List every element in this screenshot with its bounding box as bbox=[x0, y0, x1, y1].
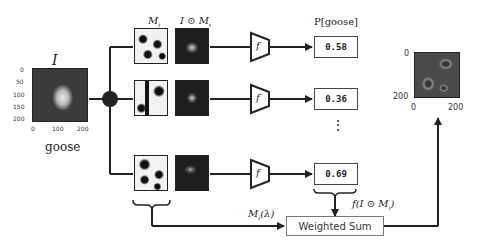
tick: 0 bbox=[20, 66, 24, 73]
mask-image-2 bbox=[134, 80, 168, 116]
mask-image-1 bbox=[134, 28, 168, 64]
tick: 150 bbox=[13, 103, 24, 110]
tick: 0 bbox=[411, 103, 416, 112]
model-f-2 bbox=[251, 85, 269, 113]
tick: 200 bbox=[393, 92, 408, 101]
masked-image-2 bbox=[175, 80, 209, 116]
tick: 200 bbox=[13, 115, 24, 122]
tick: 50 bbox=[16, 78, 24, 85]
masked-header: I ⊙ Mi bbox=[180, 15, 211, 28]
tick: 200 bbox=[77, 125, 88, 132]
tick: 0 bbox=[404, 49, 409, 58]
mask-image-3 bbox=[134, 155, 168, 191]
scores-label: f(I ⊙ Mi) bbox=[352, 198, 394, 211]
tick: 0 bbox=[31, 125, 35, 132]
tick: 100 bbox=[52, 125, 63, 132]
model-f-1 bbox=[251, 33, 269, 61]
mask-header: Mi bbox=[148, 15, 160, 28]
input-image bbox=[32, 68, 88, 122]
input-label: I bbox=[52, 52, 58, 68]
masked-image-1 bbox=[175, 28, 209, 64]
output-header: P[goose] bbox=[314, 16, 358, 27]
weights-label: Mi(λ) bbox=[248, 208, 274, 221]
model-f-3 bbox=[251, 160, 269, 188]
masked-image-3 bbox=[175, 155, 209, 191]
saliency-map bbox=[414, 52, 460, 98]
weighted-sum-box: Weighted Sum bbox=[286, 216, 384, 236]
probability-box-1: 0.58 bbox=[314, 36, 358, 58]
tick: 200 bbox=[448, 103, 463, 112]
probability-box-3: 0.69 bbox=[314, 163, 358, 185]
diagram-connectors bbox=[0, 0, 484, 245]
model-f-label-3: f bbox=[256, 167, 260, 178]
ellipsis: ⋮ bbox=[331, 118, 345, 132]
scores-brace bbox=[314, 189, 356, 197]
model-f-label-1: f bbox=[256, 40, 260, 51]
class-label: goose bbox=[45, 140, 80, 154]
tick: 100 bbox=[13, 91, 24, 98]
probability-box-2: 0.36 bbox=[314, 88, 358, 110]
model-f-label-2: f bbox=[256, 92, 260, 103]
mask-brace bbox=[133, 200, 170, 209]
